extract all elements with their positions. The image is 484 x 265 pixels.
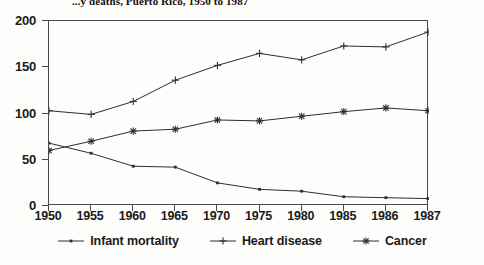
data-point-dot xyxy=(174,166,177,169)
y-tick-label: 200 xyxy=(15,13,36,28)
y-tick-label: 150 xyxy=(15,59,36,74)
data-point-dot xyxy=(427,197,429,200)
legend-marker-asterisk-icon xyxy=(352,235,380,247)
data-point-plus xyxy=(298,56,305,63)
data-point-plus xyxy=(340,42,347,49)
chart-container: ...y deaths, Puerto Rico, 1950 to 1987 0… xyxy=(0,0,484,265)
data-point-asterisk xyxy=(256,117,263,124)
data-point-asterisk xyxy=(214,116,221,123)
legend-label: Infant mortality xyxy=(90,234,179,248)
data-point-dot xyxy=(384,196,387,199)
data-point-dot xyxy=(49,142,50,145)
legend-marker-dot-icon xyxy=(57,235,85,247)
data-point-asterisk xyxy=(172,126,179,133)
legend-label: Cancer xyxy=(385,234,427,248)
plot-area xyxy=(48,20,428,205)
x-tick-label: 1965 xyxy=(161,209,188,223)
legend-item-cancer[interactable]: Cancer xyxy=(352,234,427,248)
legend-marker-plus-icon xyxy=(209,235,237,247)
data-point-plus xyxy=(219,237,226,244)
data-point-asterisk xyxy=(340,108,347,115)
series-cancer xyxy=(49,104,429,154)
data-point-asterisk xyxy=(88,138,95,145)
x-tick-label: 1986 xyxy=(371,209,398,223)
series-infant-mortality xyxy=(49,142,429,200)
data-point-plus xyxy=(256,50,263,57)
data-point-plus xyxy=(214,62,221,69)
data-point-plus xyxy=(130,98,137,105)
data-point-asterisk xyxy=(298,113,305,120)
y-tick-label: 50 xyxy=(22,151,36,166)
data-point-asterisk xyxy=(382,104,389,111)
data-point-dot xyxy=(300,190,303,193)
data-point-asterisk xyxy=(362,237,369,244)
x-tick-label: 1950 xyxy=(34,209,61,223)
data-point-dot xyxy=(90,152,93,155)
data-point-plus xyxy=(49,107,53,114)
x-tick-label: 1980 xyxy=(287,209,314,223)
data-point-dot xyxy=(258,188,261,191)
x-tick-label: 1987 xyxy=(413,209,440,223)
data-point-plus xyxy=(424,29,429,36)
x-tick-label: 1985 xyxy=(329,209,356,223)
series-heart-disease xyxy=(49,29,429,119)
data-point-plus xyxy=(382,43,389,50)
legend-item-heart-disease[interactable]: Heart disease xyxy=(209,234,322,248)
data-point-dot xyxy=(216,181,219,184)
data-point-plus xyxy=(88,111,95,118)
y-tick-label: 100 xyxy=(15,105,36,120)
data-point-asterisk xyxy=(49,147,53,154)
x-tick-label: 1970 xyxy=(203,209,230,223)
data-point-asterisk xyxy=(424,107,429,114)
legend-item-infant-mortality[interactable]: Infant mortality xyxy=(57,234,179,248)
data-point-dot xyxy=(342,195,345,198)
chart-legend: Infant mortalityHeart diseaseCancer xyxy=(0,234,484,248)
y-axis: 050100150200 xyxy=(0,0,44,225)
chart-title: ...y deaths, Puerto Rico, 1950 to 1987 xyxy=(72,0,248,7)
x-tick-label: 1960 xyxy=(119,209,146,223)
data-point-dot xyxy=(70,240,73,243)
data-point-asterisk xyxy=(130,127,137,134)
x-tick-label: 1975 xyxy=(245,209,272,223)
data-point-dot xyxy=(132,165,135,168)
legend-label: Heart disease xyxy=(242,234,322,248)
x-tick-label: 1955 xyxy=(77,209,104,223)
series-plot xyxy=(49,21,429,206)
data-point-plus xyxy=(172,77,179,84)
